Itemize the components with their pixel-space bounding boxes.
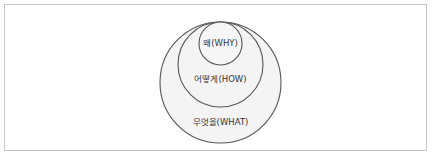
golden-circle-diagram: 무엇을(WHAT) 어떻게(HOW) 왜(WHY): [0, 0, 435, 157]
how-label: 어떻게(HOW): [194, 74, 246, 84]
why-label: 왜(WHY): [203, 38, 238, 48]
what-label: 무엇을(WHAT): [193, 117, 249, 127]
